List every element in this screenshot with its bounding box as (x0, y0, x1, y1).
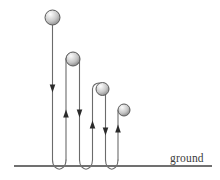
ball-4 (118, 104, 130, 116)
bouncing-ball-diagram: ground (0, 0, 220, 180)
bounce-arcs (53, 160, 119, 169)
arrow-fall-1-icon (50, 85, 56, 93)
arrow-fall-3-icon (103, 128, 109, 136)
bounce-arc-3 (106, 160, 119, 169)
ball-1 (45, 10, 60, 25)
bounce-arc-2 (80, 160, 93, 169)
ball-2 (66, 52, 80, 66)
bouncing-ball-figure: ground (0, 0, 220, 180)
ball-3 (96, 83, 109, 96)
ground-label: ground (170, 152, 204, 165)
arrow-rise-1-icon (63, 110, 69, 118)
arrow-fall-2-icon (77, 110, 83, 118)
arrow-rise-3-icon (115, 125, 121, 133)
bounce-arc-1 (53, 160, 67, 169)
arrow-rise-2-icon (90, 121, 96, 129)
direction-arrows (50, 85, 121, 136)
ball-markers (45, 10, 130, 116)
